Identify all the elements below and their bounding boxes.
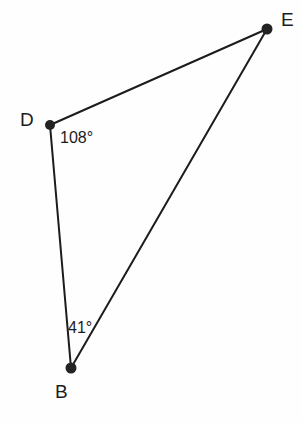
angle-measure-b: 41° — [68, 320, 92, 336]
triangle-diagram: D E B 108° 41° — [0, 0, 302, 423]
vertex-label-e: E — [281, 10, 294, 29]
edge-b-e — [71, 29, 267, 368]
vertex-point-d — [45, 120, 55, 130]
vertex-point-b — [66, 363, 77, 374]
angle-measure-d: 108° — [60, 130, 93, 146]
vertex-point-e — [262, 24, 273, 35]
vertex-label-d: D — [20, 110, 34, 129]
vertex-label-b: B — [55, 382, 68, 401]
edge-d-e — [50, 29, 267, 125]
diagram-canvas — [0, 0, 302, 423]
